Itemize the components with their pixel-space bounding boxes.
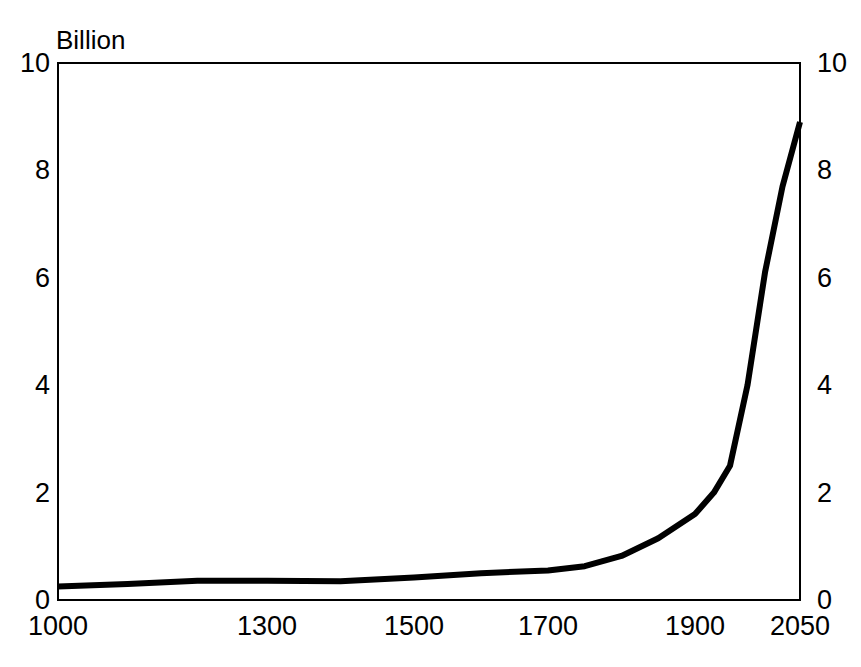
population-data-line: [58, 122, 800, 587]
y-axis-right-tick-6: 6: [817, 265, 832, 292]
y-axis-left-tick-4: 4: [35, 372, 50, 399]
y-axis-left-tick-6: 6: [35, 265, 50, 292]
y-axis-right-tick-10: 10: [817, 50, 847, 77]
plot-area: [0, 0, 861, 667]
x-axis-tick-2050: 2050: [770, 613, 830, 640]
y-axis-left-tick-2: 2: [35, 480, 50, 507]
x-axis-tick-1700: 1700: [518, 613, 578, 640]
x-axis-tick-1900: 1900: [665, 613, 725, 640]
x-axis-tick-1300: 1300: [237, 613, 297, 640]
y-axis-left-tick-0: 0: [35, 587, 50, 614]
y-axis-right-tick-8: 8: [817, 157, 832, 184]
population-line-chart: Billion 0246810 0246810 1000130015001700…: [0, 0, 861, 667]
y-axis-right-tick-2: 2: [817, 480, 832, 507]
y-axis-right-tick-4: 4: [817, 372, 832, 399]
x-axis-tick-1500: 1500: [384, 613, 444, 640]
y-axis-right-tick-0: 0: [817, 587, 832, 614]
y-axis-left-tick-8: 8: [35, 157, 50, 184]
y-axis-left-tick-10: 10: [20, 50, 50, 77]
x-axis-tick-1000: 1000: [28, 613, 88, 640]
